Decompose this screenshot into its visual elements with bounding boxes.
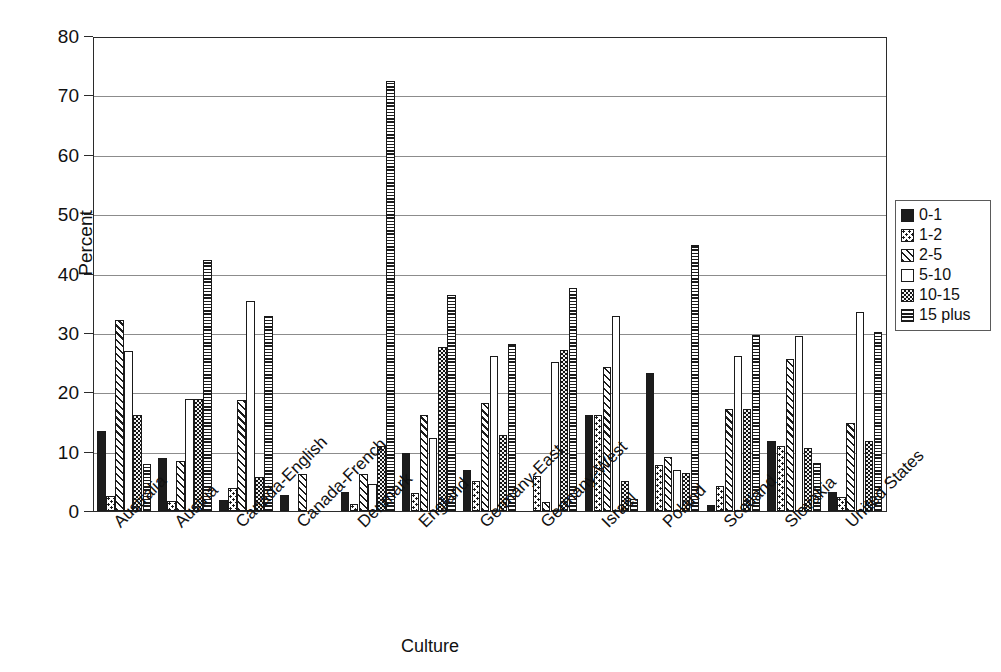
bar	[828, 492, 836, 512]
bar	[846, 423, 854, 511]
bar	[237, 400, 245, 511]
legend-swatch-icon	[901, 289, 914, 302]
bar-group	[94, 38, 155, 511]
bar	[167, 501, 175, 511]
bar	[655, 465, 663, 511]
bar	[106, 496, 114, 511]
legend-swatch-icon	[901, 209, 914, 222]
y-tick-label: 10	[33, 443, 79, 462]
bar	[734, 356, 742, 511]
bar	[743, 409, 751, 511]
bar	[350, 504, 358, 511]
bar	[786, 359, 794, 511]
bar	[143, 464, 151, 511]
bar	[630, 499, 638, 511]
bar	[777, 446, 785, 511]
y-tick-mark	[84, 95, 93, 96]
y-tick-mark	[84, 452, 93, 453]
y-tick-mark	[84, 392, 93, 393]
legend-label: 2-5	[919, 247, 942, 263]
bar-group	[520, 38, 581, 511]
bar	[621, 481, 629, 511]
y-tick-label: 80	[33, 27, 79, 46]
legend-item: 10-15	[901, 285, 985, 305]
y-tick-label: 30	[33, 324, 79, 343]
bar	[472, 481, 480, 511]
y-tick-label: 40	[33, 265, 79, 284]
bar-group	[155, 38, 216, 511]
bar	[255, 477, 263, 511]
bar	[359, 474, 367, 511]
bar	[124, 351, 132, 511]
bar	[203, 260, 211, 511]
legend-swatch-icon	[901, 269, 914, 282]
bar	[646, 373, 654, 511]
bar-group	[642, 38, 703, 511]
y-tick-label: 0	[33, 502, 79, 521]
bar	[133, 415, 141, 511]
legend-swatch-icon	[901, 249, 914, 262]
legend-item: 15 plus	[901, 305, 985, 325]
bar	[767, 441, 775, 511]
bar	[725, 409, 733, 511]
bar	[499, 435, 507, 511]
bar	[856, 312, 864, 511]
bar	[463, 470, 471, 511]
legend-label: 1-2	[919, 227, 942, 243]
bar	[490, 356, 498, 511]
bar	[386, 81, 394, 511]
bar-group	[338, 38, 399, 511]
bar	[795, 336, 803, 511]
bar	[420, 415, 428, 511]
bar	[533, 476, 541, 511]
bar	[429, 438, 437, 511]
bar	[551, 362, 559, 511]
bar	[813, 463, 821, 511]
y-tick-label: 20	[33, 383, 79, 402]
bar-group	[764, 38, 825, 511]
bar	[115, 320, 123, 511]
bar	[542, 502, 550, 511]
x-axis-title: Culture	[330, 636, 530, 657]
bar	[264, 316, 272, 511]
bar-group	[399, 38, 460, 511]
bar	[585, 415, 593, 511]
bar	[97, 431, 105, 511]
bar-group	[581, 38, 642, 511]
y-tick-mark	[84, 333, 93, 334]
bar	[219, 500, 227, 511]
legend-swatch-icon	[901, 309, 914, 322]
bar	[341, 492, 349, 511]
bar-groups	[94, 38, 886, 511]
bar	[837, 497, 845, 511]
bar	[298, 474, 306, 511]
bar	[612, 316, 620, 511]
bar	[368, 484, 376, 511]
bar	[594, 415, 602, 511]
bar	[691, 245, 699, 511]
y-tick-label: 70	[33, 86, 79, 105]
y-tick-mark	[84, 36, 93, 37]
bar-group	[703, 38, 764, 511]
bar	[560, 350, 568, 511]
bar	[411, 493, 419, 511]
bar	[603, 367, 611, 511]
bar	[158, 458, 166, 511]
bar	[377, 446, 385, 511]
bar	[194, 399, 202, 511]
bar	[508, 344, 516, 511]
bar	[673, 470, 681, 511]
bar	[874, 332, 882, 511]
bar	[752, 335, 760, 511]
bar	[707, 505, 715, 511]
y-tick-mark	[84, 511, 93, 512]
bar	[185, 399, 193, 511]
bar	[402, 453, 410, 511]
bar	[246, 301, 254, 511]
chart-root: 01020304050607080 Percent AustraliaAustr…	[0, 0, 1001, 672]
legend-item: 1-2	[901, 225, 985, 245]
bar	[447, 295, 455, 511]
bar-group	[216, 38, 277, 511]
bar-group	[460, 38, 521, 511]
bar	[682, 473, 690, 511]
